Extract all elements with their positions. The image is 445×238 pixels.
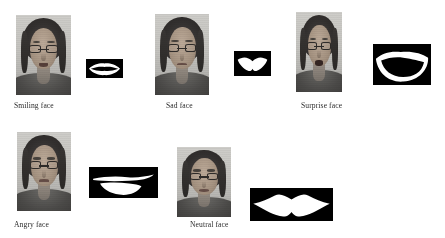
neutral-mouth-shape [250,188,333,221]
angry-mouth-shape [89,167,158,198]
sad-face-photo [155,14,209,95]
sad-face-caption: Sad face [166,101,193,110]
smiling-mouth-shape [86,59,123,78]
sad-mouth-binary-image [234,51,271,76]
angry-face-photo [17,132,71,211]
neutral-mouth-binary-image [250,188,333,221]
angry-mouth-binary-image [89,167,158,198]
smiling-mouth-binary-image [86,59,123,78]
neutral-face-caption: Neutral face [190,220,229,229]
photo-grayscale-overlay [296,12,342,92]
figure-canvas: Smiling face Sad face Surprise face [0,0,445,238]
neutral-face-photo [177,147,231,217]
sad-mouth-shape [234,51,271,76]
surprise-face-caption: Surprise face [301,101,342,110]
photo-grayscale-overlay [177,147,231,217]
photo-grayscale-overlay [16,15,71,95]
photo-grayscale-overlay [155,14,209,95]
smiling-face-photo [16,15,71,95]
surprise-face-photo [296,12,342,92]
surprise-mouth-shape [373,44,431,85]
smiling-face-caption: Smiling face [14,101,54,110]
photo-grayscale-overlay [17,132,71,211]
surprise-mouth-binary-image [373,44,431,85]
angry-face-caption: Angry face [14,220,49,229]
